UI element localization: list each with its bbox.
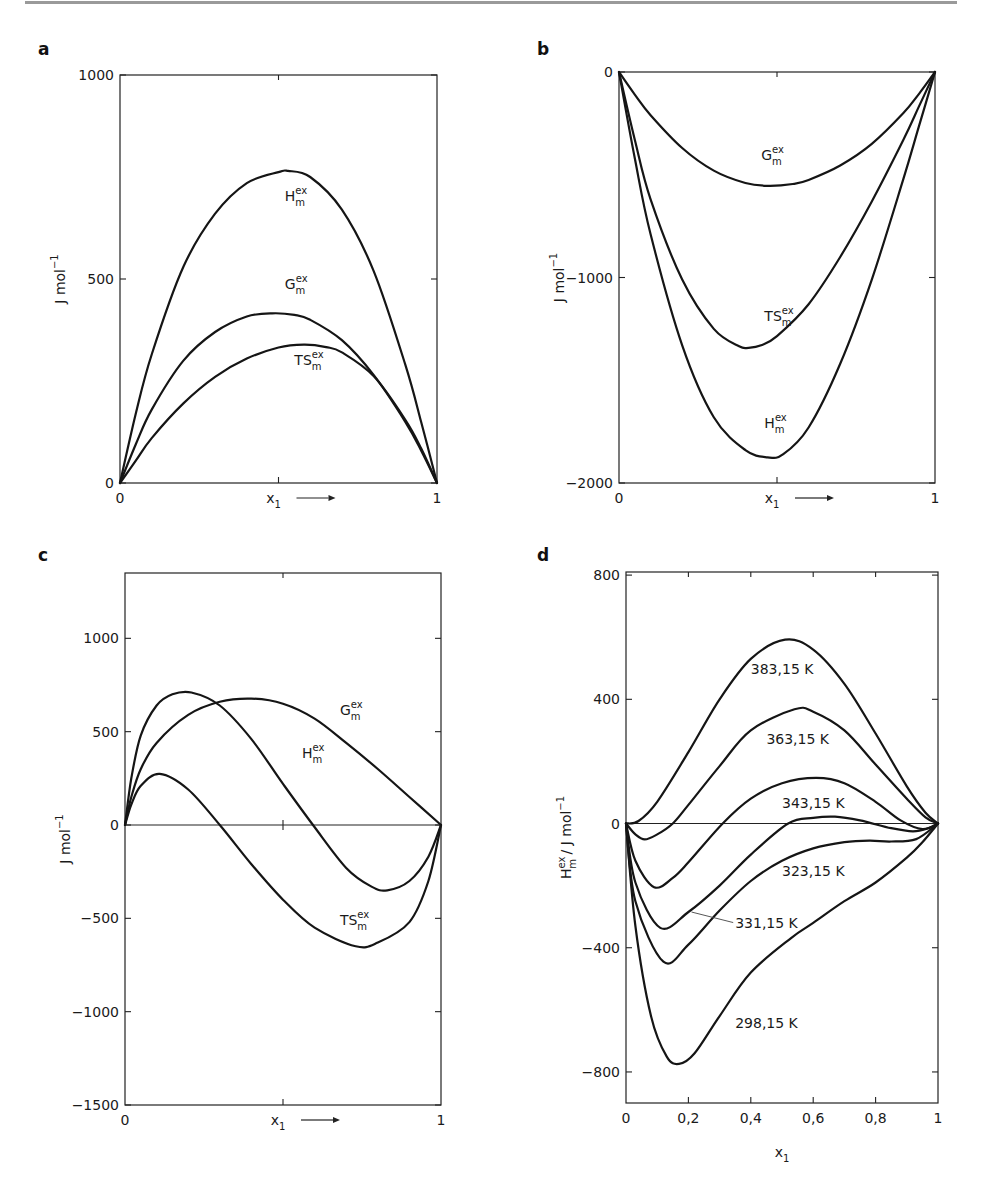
panel-label-d: d xyxy=(537,545,549,565)
x-tick-label: 0,2 xyxy=(677,1110,699,1126)
y-tick-label: −800 xyxy=(582,1064,620,1080)
curve-h-m-ex xyxy=(120,170,437,483)
x-tick-label: 1 xyxy=(433,490,442,506)
x-axis-title: x1 xyxy=(266,490,281,510)
y-axis-title: J mol−1 xyxy=(49,254,68,304)
arrow-head-icon xyxy=(827,495,834,501)
y-tick-label: 1000 xyxy=(78,67,114,83)
x-tick-label: 0 xyxy=(615,490,624,506)
curve-323-15-k xyxy=(626,824,938,964)
x-axis-title: x1 xyxy=(271,1112,286,1132)
curve-label-g: Gexm xyxy=(761,144,784,167)
x-tick-label: 0,8 xyxy=(864,1110,886,1126)
x-tick-label: 1 xyxy=(437,1112,446,1128)
curve-label-h: Hexm xyxy=(764,412,787,435)
figure-canvas: a 0500100001x1J mol−1HexmGexmTSexm b −20… xyxy=(0,0,981,1200)
x-tick-label: 0,6 xyxy=(802,1110,824,1126)
curve-label-ts: TSexm xyxy=(293,349,323,372)
y-tick-label: −2000 xyxy=(566,475,613,491)
curve-label-g: Gexm xyxy=(340,699,363,722)
y-tick-label: 500 xyxy=(87,271,114,287)
y-tick-label: −500 xyxy=(81,910,119,926)
curve-label-h: Hexm xyxy=(285,185,308,208)
y-tick-label: 0 xyxy=(611,816,620,832)
panel-label-a: a xyxy=(38,39,49,59)
plot-frame xyxy=(120,75,437,483)
curve-label-h: Hexm xyxy=(302,742,325,765)
y-axis-title: Hexm / J mol−1 xyxy=(555,796,578,879)
curve-ts-m-ex xyxy=(125,774,441,948)
curve-g-m-ex xyxy=(125,699,441,825)
curve-label: 331,15 K xyxy=(735,915,798,931)
y-axis-title: J mol−1 xyxy=(548,253,567,303)
arrow-head-icon xyxy=(333,1117,340,1123)
panel-d: d −800−400040080000,20,40,60,81x1Hexm / … xyxy=(537,545,942,1164)
curve-g-m-ex xyxy=(619,72,935,186)
curve-label: 363,15 K xyxy=(766,731,829,747)
y-tick-label: 500 xyxy=(92,724,119,740)
panel-c: c −1500−1000−5000500100001x1J mol−1GexmH… xyxy=(38,545,445,1132)
curve-label: 298,15 K xyxy=(735,1015,798,1031)
curve-h-m-ex xyxy=(125,692,441,891)
arrow-head-icon xyxy=(329,495,336,501)
curve-label-ts: TSexm xyxy=(763,305,793,328)
x-tick-label: 1 xyxy=(931,490,940,506)
x-tick-label: 0 xyxy=(116,490,125,506)
panel-label-b: b xyxy=(537,39,549,59)
y-tick-label: −400 xyxy=(582,940,620,956)
x-axis-title: x1 xyxy=(765,490,780,510)
curve-363-15-k xyxy=(626,708,938,840)
y-axis-title: J mol−1 xyxy=(54,814,73,864)
x-tick-label: 1 xyxy=(934,1110,943,1126)
panel-a: a 0500100001x1J mol−1HexmGexmTSexm xyxy=(38,39,441,510)
y-tick-label: 0 xyxy=(110,817,119,833)
y-tick-label: 0 xyxy=(105,475,114,491)
curve-label: 343,15 K xyxy=(782,795,845,811)
curve-label-g: Gexm xyxy=(285,273,308,296)
leader-line xyxy=(692,912,734,923)
panel-label-c: c xyxy=(38,545,48,565)
curve-ts-m-ex xyxy=(120,345,437,483)
x-tick-label: 0 xyxy=(622,1110,631,1126)
curve-label: 323,15 K xyxy=(782,863,845,879)
y-tick-label: −1000 xyxy=(72,1004,119,1020)
y-tick-label: 1000 xyxy=(83,630,119,646)
x-tick-label: 0,4 xyxy=(740,1110,762,1126)
y-tick-label: 400 xyxy=(593,691,620,707)
curve-label-ts: TSexm xyxy=(339,909,369,932)
y-tick-label: 0 xyxy=(604,64,613,80)
x-axis-title: x1 xyxy=(775,1144,790,1164)
panel-b: b −2000−1000001x1J mol−1GexmTSexmHexm xyxy=(537,39,939,510)
y-tick-label: 800 xyxy=(593,567,620,583)
y-tick-label: −1000 xyxy=(566,270,613,286)
plot-frame xyxy=(125,573,441,1105)
curve-label: 383,15 K xyxy=(751,661,814,677)
x-tick-label: 0 xyxy=(121,1112,130,1128)
y-tick-label: −1500 xyxy=(72,1097,119,1113)
